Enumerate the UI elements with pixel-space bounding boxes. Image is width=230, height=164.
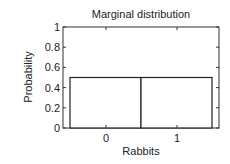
y-axis-label: Probability	[22, 51, 34, 103]
bar-0	[70, 78, 141, 129]
y-tick-label: 1	[54, 21, 60, 33]
y-tick-labels: 0 0.2 0.4 0.6 0.8 1	[45, 21, 60, 134]
x-axis-label: Rabbits	[122, 145, 160, 157]
y-tick-label: 0.8	[45, 41, 60, 53]
bars	[70, 78, 212, 129]
x-tick-label: 0	[103, 132, 109, 144]
y-tick-label: 0	[54, 122, 60, 134]
y-tick-label: 0.4	[45, 82, 60, 94]
y-tick-label: 0.2	[45, 102, 60, 114]
bar-1	[141, 78, 212, 129]
chart-title: Marginal distribution	[92, 8, 190, 20]
chart: Marginal distribution 0 0.2 0.4 0.6 0.8 …	[0, 0, 230, 164]
y-tick-label: 0.6	[45, 61, 60, 73]
x-tick-label: 1	[174, 132, 180, 144]
